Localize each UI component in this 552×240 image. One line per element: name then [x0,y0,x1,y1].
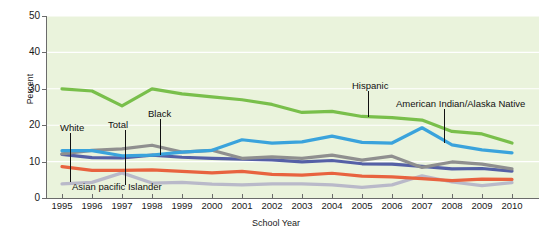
x-tick-label: 1995 [45,200,79,211]
x-tick-label: 2001 [225,200,259,211]
annotation-label: Asian pacific Islander [72,181,162,192]
annotation-label: Total [108,119,128,130]
annotation-leader-line [444,109,445,143]
x-tick-label: 1998 [135,200,169,211]
x-tick-label: 2003 [285,200,319,211]
annotation-label: American Indian/Alaska Native [396,98,525,109]
x-tick-label: 1997 [105,200,139,211]
x-tick-label: 2009 [465,200,499,211]
y-tick-label: 40 [14,46,40,57]
y-tick-label: 30 [14,83,40,94]
x-axis-line [46,198,539,199]
x-tick-label: 2000 [195,200,229,211]
x-axis-title: School Year [0,218,552,228]
y-tick-label: 0 [14,192,40,203]
x-tick-label: 2010 [495,200,529,211]
x-tick-label: 2008 [435,200,469,211]
x-tick-label: 2007 [405,200,439,211]
annotation-leader-line [368,91,369,117]
y-tick-label: 20 [14,119,40,130]
annotation-leader-line [160,119,161,155]
annotation-label: Hispanic [352,80,388,91]
annotation-leader-line [125,170,126,181]
x-tick-label: 2002 [255,200,289,211]
x-tick-label: 2006 [375,200,409,211]
annotation-label: Black [148,108,171,119]
y-axis-line [46,16,47,198]
annotation-label: White [60,122,84,133]
x-tick-label: 2005 [345,200,379,211]
line-chart: Percent 01020304050 19951996199719981999… [0,0,552,240]
x-tick-label: 1999 [165,200,199,211]
x-tick-label: 1996 [75,200,109,211]
x-tick-label: 2004 [315,200,349,211]
annotation-leader-line [70,133,71,182]
y-tick-label: 10 [14,156,40,167]
y-tick-label: 50 [14,10,40,21]
